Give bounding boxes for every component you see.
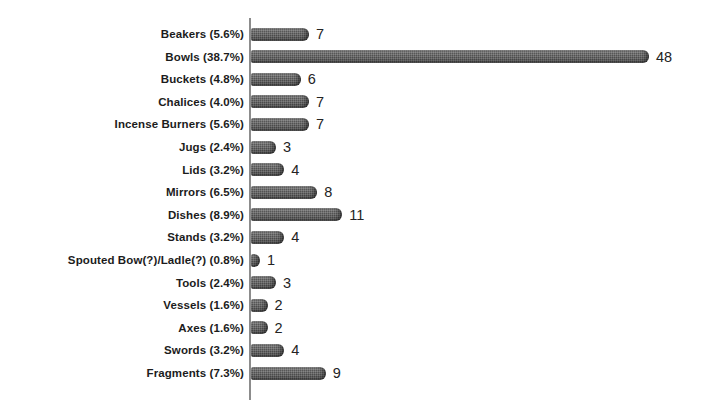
bar [251, 208, 342, 221]
plot-area: Beakers (5.6%)7Bowls (38.7%)48Buckets (4… [0, 18, 714, 400]
bar-value-label: 4 [291, 339, 299, 362]
category-label: Jugs (2.4%) [0, 136, 244, 159]
bar-row: Buckets (4.8%)6 [0, 68, 714, 91]
bar [251, 254, 260, 267]
bar-value-label: 48 [656, 46, 672, 69]
bar [251, 163, 284, 176]
category-label: Tools (2.4%) [0, 272, 244, 295]
bar [251, 276, 276, 289]
category-label: Lids (3.2%) [0, 159, 244, 182]
bar-value-label: 7 [316, 23, 324, 46]
bar-value-label: 4 [291, 226, 299, 249]
bar-rows-container: Beakers (5.6%)7Bowls (38.7%)48Buckets (4… [0, 18, 714, 400]
bar-value-label: 11 [349, 204, 364, 227]
category-label: Vessels (1.6%) [0, 294, 244, 317]
category-label: Fragments (7.3%) [0, 362, 244, 385]
bar-value-label: 3 [283, 272, 291, 295]
bar-row: Stands (3.2%)4 [0, 226, 714, 249]
bar-value-label: 2 [275, 317, 283, 340]
category-label: Mirrors (6.5%) [0, 181, 244, 204]
bar-value-label: 3 [283, 136, 291, 159]
category-label: Stands (3.2%) [0, 226, 244, 249]
category-label: Spouted Bow(?)/Ladle(?) (0.8%) [0, 249, 244, 272]
bar-row: Incense Burners (5.6%)7 [0, 113, 714, 136]
bar [251, 141, 276, 154]
category-label: Chalices (4.0%) [0, 91, 244, 114]
bar [251, 73, 301, 86]
bar-value-label: 8 [324, 181, 332, 204]
bar [251, 367, 326, 380]
bar [251, 321, 268, 334]
bar-row: Bowls (38.7%)48 [0, 46, 714, 69]
category-label: Dishes (8.9%) [0, 204, 244, 227]
bar-row: Vessels (1.6%)2 [0, 294, 714, 317]
bar [251, 186, 317, 199]
bar-row: Swords (3.2%)4 [0, 339, 714, 362]
bar [251, 95, 309, 108]
bar [251, 118, 309, 131]
bar-row: Dishes (8.9%)11 [0, 204, 714, 227]
bar-row: Mirrors (6.5%)8 [0, 181, 714, 204]
category-label: Buckets (4.8%) [0, 68, 244, 91]
category-label: Swords (3.2%) [0, 339, 244, 362]
bar-chart: Beakers (5.6%)7Bowls (38.7%)48Buckets (4… [0, 0, 714, 416]
bar-value-label: 7 [316, 113, 324, 136]
bar-row: Axes (1.6%)2 [0, 317, 714, 340]
bar-row: Tools (2.4%)3 [0, 272, 714, 295]
category-label: Beakers (5.6%) [0, 23, 244, 46]
bar [251, 299, 268, 312]
bar-value-label: 2 [275, 294, 283, 317]
bar-row: Jugs (2.4%)3 [0, 136, 714, 159]
bar-value-label: 1 [267, 249, 275, 272]
bar-value-label: 6 [308, 68, 316, 91]
bar-row: Fragments (7.3%)9 [0, 362, 714, 385]
bar-row: Beakers (5.6%)7 [0, 23, 714, 46]
bar [251, 231, 284, 244]
bar-value-label: 9 [333, 362, 341, 385]
bar [251, 28, 309, 41]
bar-row: Chalices (4.0%)7 [0, 91, 714, 114]
bar-row: Lids (3.2%)4 [0, 159, 714, 182]
bar-row: Spouted Bow(?)/Ladle(?) (0.8%)1 [0, 249, 714, 272]
bar [251, 50, 649, 63]
bar-value-label: 7 [316, 91, 324, 114]
bar [251, 344, 284, 357]
category-label: Incense Burners (5.6%) [0, 113, 244, 136]
category-label: Bowls (38.7%) [0, 46, 244, 69]
category-label: Axes (1.6%) [0, 317, 244, 340]
bar-value-label: 4 [291, 159, 299, 182]
